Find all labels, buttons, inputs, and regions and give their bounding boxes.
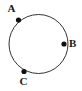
point-marker-b: [61, 41, 66, 46]
circle-outline: [9, 15, 68, 74]
point-label-c: C: [20, 76, 28, 87]
point-marker-a: [16, 17, 21, 22]
point-marker-c: [21, 69, 26, 74]
point-label-a: A: [8, 3, 16, 14]
circle-diagram: A B C: [0, 0, 82, 91]
point-label-b: B: [69, 38, 76, 49]
